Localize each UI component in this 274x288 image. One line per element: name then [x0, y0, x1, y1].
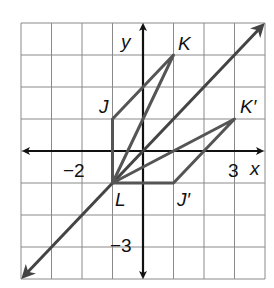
tick-label-x-neg2: −2	[63, 160, 85, 181]
point-label-j: J	[98, 96, 109, 117]
point-label-l: L	[115, 189, 126, 210]
point-label-k: K	[178, 33, 192, 54]
point-label-k-prime: K′	[240, 96, 258, 117]
tick-label-x-3: 3	[228, 160, 239, 181]
x-axis-label: x	[249, 158, 261, 179]
coordinate-plane: y x −2 3 −3 J K L J′ K′	[0, 0, 274, 288]
y-axis-label: y	[119, 31, 132, 52]
tick-label-y-neg3: −3	[110, 235, 132, 256]
line-y-equals-x	[143, 26, 262, 151]
point-label-j-prime: J′	[176, 189, 192, 210]
